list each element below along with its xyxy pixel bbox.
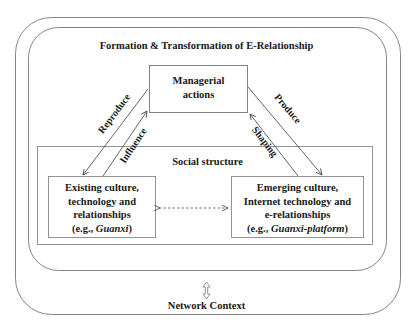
managerial-line1: Managerial [149, 74, 248, 88]
managerial-line2: actions [149, 88, 248, 102]
network-context-label: Network Context [150, 300, 263, 311]
emerging-example-prefix: (e.g., [247, 223, 271, 234]
emerging-line3: e-relationships [231, 208, 364, 222]
emerging-line1: Emerging culture, [231, 181, 364, 195]
existing-example-suffix: ) [129, 223, 133, 234]
hollow-double-arrow-icon [203, 282, 210, 299]
emerging-culture-text: Emerging culture, Internet technology an… [231, 181, 364, 235]
existing-example-prefix: (e.g., [72, 223, 96, 234]
emerging-example-term: Guanxi-platform [271, 223, 345, 234]
existing-example-term: Guanxi [96, 223, 129, 234]
emerging-example-suffix: ) [344, 223, 348, 234]
existing-line3: relationships [48, 208, 156, 222]
emerging-example: (e.g., Guanxi-platform) [231, 222, 364, 236]
social-structure-label: Social structure [160, 156, 255, 167]
existing-culture-text: Existing culture, technology and relatio… [48, 181, 156, 235]
managerial-actions-label: Managerial actions [149, 74, 248, 101]
existing-line1: Existing culture, [48, 181, 156, 195]
existing-line2: technology and [48, 195, 156, 209]
emerging-line2: Internet technology and [231, 195, 364, 209]
existing-example: (e.g., Guanxi) [48, 222, 156, 236]
diagram-title: Formation & Transformation of E-Relation… [0, 40, 413, 51]
